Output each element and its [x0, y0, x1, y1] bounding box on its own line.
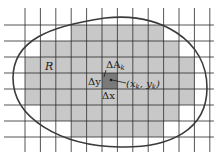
inner-cell: [179, 89, 194, 105]
inner-cell: [87, 121, 102, 137]
inner-cell: [133, 25, 148, 41]
inner-cell: [102, 105, 117, 121]
inner-cell: [133, 41, 148, 57]
sample-point: [110, 79, 113, 82]
inner-cell: [117, 41, 132, 57]
inner-cell: [117, 105, 132, 121]
inner-cell: [40, 73, 55, 89]
inner-cell: [148, 25, 163, 41]
inner-cell: [133, 121, 148, 137]
inner-cell: [117, 25, 132, 41]
delta-x-label: Δx: [102, 90, 115, 101]
inner-cell: [102, 121, 117, 137]
inner-cell: [56, 57, 71, 73]
point-mid: , y: [140, 78, 152, 89]
inner-cell: [133, 105, 148, 121]
point-close: ): [155, 78, 160, 89]
region-partition-diagram: R ΔAk Δy Δx (xk, yk): [0, 0, 224, 159]
inner-cell: [71, 121, 86, 137]
inner-cell: [148, 105, 163, 121]
inner-cell: [148, 57, 163, 73]
inner-cell: [56, 105, 71, 121]
inner-cell: [87, 57, 102, 73]
inner-cell: [71, 105, 86, 121]
inner-cell: [25, 57, 40, 73]
inner-cell: [87, 41, 102, 57]
inner-cell: [87, 25, 102, 41]
inner-cell: [148, 41, 163, 57]
inner-cell: [25, 89, 40, 105]
delta-a-text: ΔA: [106, 59, 121, 70]
inner-cell: [102, 25, 117, 41]
inner-cell: [133, 89, 148, 105]
inner-cell: [164, 57, 179, 73]
inner-cell: [40, 41, 55, 57]
inner-cell: [164, 41, 179, 57]
inner-cell: [102, 41, 117, 57]
inner-cell: [87, 89, 102, 105]
inner-cell: [164, 105, 179, 121]
inner-cell: [71, 89, 86, 105]
inner-cell: [179, 57, 194, 73]
inner-cell: [56, 41, 71, 57]
inner-cell: [56, 89, 71, 105]
inner-cell: [71, 57, 86, 73]
inner-cell: [117, 121, 132, 137]
delta-a-subscript: k: [120, 64, 124, 72]
inner-cell: [71, 25, 86, 41]
inner-cell: [87, 105, 102, 121]
inner-cell: [40, 105, 55, 121]
point-open: (x: [126, 78, 136, 89]
inner-cell: [148, 121, 163, 137]
inner-cell: [117, 89, 132, 105]
inner-cell: [164, 73, 179, 89]
inner-cell: [133, 57, 148, 73]
inner-cell: [164, 89, 179, 105]
inner-cell: [56, 73, 71, 89]
delta-y-label: Δy: [88, 76, 101, 87]
inner-cell: [71, 73, 86, 89]
inner-cell: [40, 89, 55, 105]
region-label: R: [44, 60, 53, 73]
inner-cell: [179, 73, 194, 89]
inner-cell: [71, 41, 86, 57]
inner-cell: [25, 73, 40, 89]
inner-cell: [148, 89, 163, 105]
